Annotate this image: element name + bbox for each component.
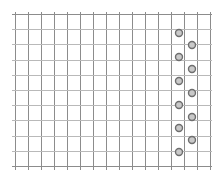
data-point-marker [176,54,183,61]
data-point-marker [189,114,196,121]
data-point-marker [176,102,183,109]
scatter-plot [0,0,221,179]
data-point-marker [189,42,196,49]
data-point-marker [176,30,183,37]
data-point-marker [176,149,183,156]
data-point-marker [176,78,183,85]
data-point-marker [189,90,196,97]
plot-background [0,0,221,179]
data-point-marker [189,66,196,73]
data-point-marker [176,125,183,132]
data-point-marker [189,137,196,144]
chart-canvas [0,0,221,179]
